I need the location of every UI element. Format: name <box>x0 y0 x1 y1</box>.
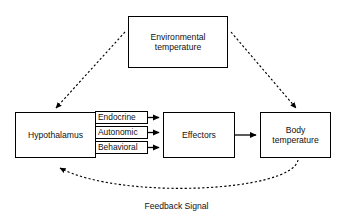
thermoregulation-diagram: Environmental temperature Hypothalamus E… <box>0 0 353 220</box>
pathway-label-endocrine-text: Endocrine <box>98 113 136 121</box>
node-effectors-label: Effectors <box>180 130 218 140</box>
feedback-signal-caption: Feedback Signal <box>0 201 353 211</box>
node-hypothalamus: Hypothalamus <box>15 112 96 158</box>
edge-feedback-signal <box>60 160 298 188</box>
node-body-temperature: Body temperature <box>260 112 331 158</box>
pathway-label-autonomic: Autonomic <box>95 126 148 139</box>
node-effectors: Effectors <box>163 112 235 158</box>
node-environmental-temperature: Environmental temperature <box>128 16 228 68</box>
node-hypothalamus-label: Hypothalamus <box>26 130 85 140</box>
pathway-label-behavioral-text: Behavioral <box>98 143 138 151</box>
pathway-label-autonomic-text: Autonomic <box>98 128 138 136</box>
pathway-label-behavioral: Behavioral <box>95 141 148 154</box>
edge-environmental-to-body-temperature <box>231 32 296 108</box>
node-environmental-temperature-label: Environmental temperature <box>149 32 208 52</box>
edge-environmental-to-hypothalamus <box>56 32 125 108</box>
node-body-temperature-label: Body temperature <box>270 125 320 145</box>
pathway-label-endocrine: Endocrine <box>95 111 148 124</box>
